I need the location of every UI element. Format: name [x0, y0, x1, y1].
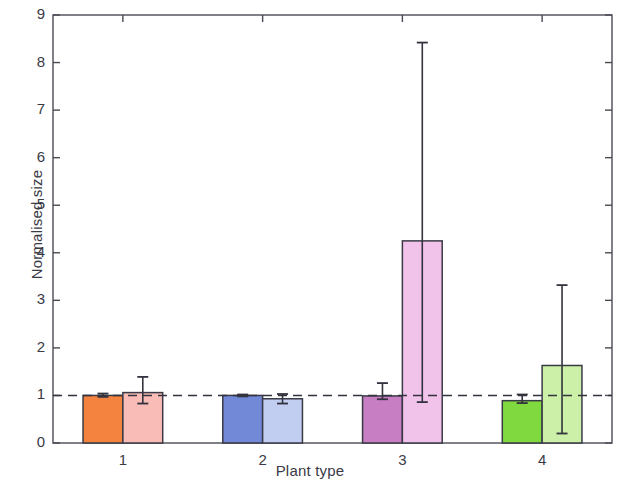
y-tick-label-7: 7	[17, 100, 45, 117]
x-tick-label-4: 4	[522, 451, 562, 468]
y-tick-label-9: 9	[17, 5, 45, 22]
y-tick-label-8: 8	[17, 53, 45, 70]
bar-chart-figure: Normalised size Plant type 0123456789123…	[0, 0, 620, 487]
y-tick-label-4: 4	[17, 243, 45, 260]
y-tick-label-5: 5	[17, 195, 45, 212]
y-tick-label-0: 0	[17, 433, 45, 450]
bar-1-dark	[83, 395, 123, 443]
bar-3-dark	[363, 396, 403, 443]
y-tick-label-3: 3	[17, 290, 45, 307]
x-tick-label-3: 3	[382, 451, 422, 468]
y-tick-label-6: 6	[17, 148, 45, 165]
plot-area	[0, 0, 620, 487]
plot-frame	[53, 15, 612, 443]
bar-4-dark	[502, 401, 542, 443]
bar-2-light	[263, 399, 303, 443]
x-tick-label-2: 2	[243, 451, 283, 468]
y-tick-label-2: 2	[17, 338, 45, 355]
bar-2-dark	[223, 395, 263, 443]
y-tick-label-1: 1	[17, 385, 45, 402]
x-tick-label-1: 1	[103, 451, 143, 468]
